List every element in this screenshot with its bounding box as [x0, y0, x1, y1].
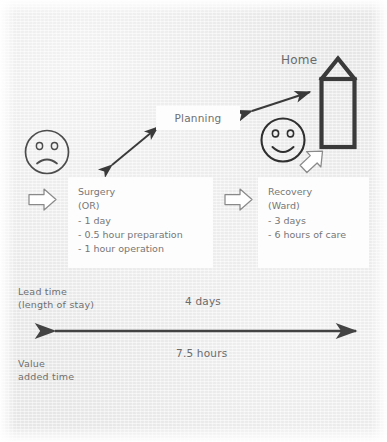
recovery-process-box[interactable]: Recovery (Ward) - 3 days - 6 hours of ca… — [258, 177, 369, 268]
surgery-bullet-2: - 1 hour operation — [78, 242, 183, 256]
happy-face-icon — [262, 119, 305, 162]
value-added-label-line2: added time — [18, 370, 74, 383]
surgery-bullet-0: - 1 day — [78, 214, 183, 228]
value-added-time-value: 7.5 hours — [176, 347, 227, 359]
house-icon — [322, 59, 355, 148]
recovery-title: Recovery — [268, 185, 346, 199]
surgery-title: Surgery — [78, 185, 183, 199]
push-arrow-icon-1 — [29, 189, 56, 210]
recovery-bullet-0: - 3 days — [268, 214, 346, 228]
surgery-process-box[interactable]: Surgery (OR) - 1 day - 0.5 hour preparat… — [68, 177, 213, 268]
push-arrow-icon-2 — [225, 189, 252, 210]
home-label: Home — [281, 53, 317, 67]
sad-face-icon — [26, 131, 69, 174]
recovery-subtitle: (Ward) — [268, 199, 346, 213]
planning-surgery-arrow — [112, 127, 158, 165]
surgery-subtitle: (OR) — [78, 199, 183, 213]
planning-note[interactable]: Planning — [156, 106, 240, 130]
lead-time-label-line2: (length of stay) — [18, 298, 94, 311]
value-stream-map-canvas: Planning Surgery (OR) - 1 day - 0.5 hour… — [0, 0, 387, 442]
value-added-label-line1: Value — [18, 357, 45, 370]
recovery-bullet-1: - 6 hours of care — [268, 228, 346, 242]
planning-label: Planning — [175, 112, 222, 124]
lead-time-label-line1: Lead time — [18, 285, 67, 298]
lead-time-value: 4 days — [185, 295, 221, 307]
planning-home-arrow — [252, 92, 310, 111]
surgery-bullet-1: - 0.5 hour preparation — [78, 228, 183, 242]
